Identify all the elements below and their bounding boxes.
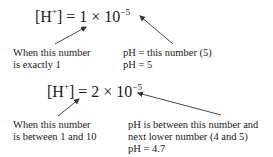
arrow-2-right-icon: [138, 93, 221, 115]
arrows-layer: [0, 0, 273, 157]
arrow-1-left-icon: [55, 27, 86, 44]
arrow-1-right-icon: [140, 16, 173, 44]
arrow-2-left-icon: [58, 99, 79, 116]
